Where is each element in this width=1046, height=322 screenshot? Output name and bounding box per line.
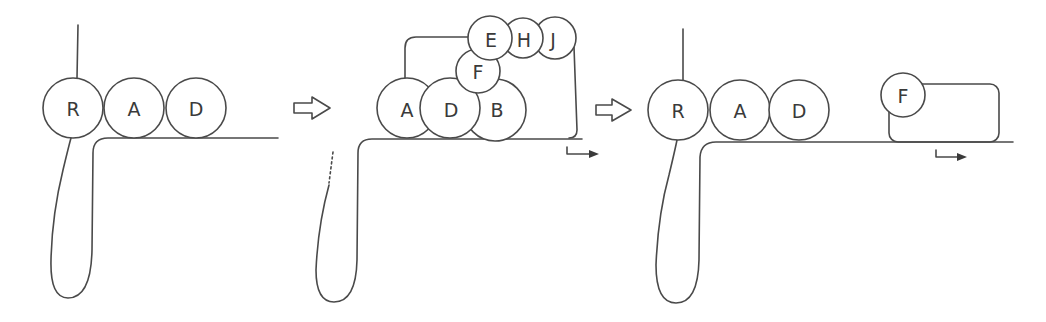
strand-top bbox=[77, 25, 78, 78]
direction-arrowhead-icon bbox=[957, 153, 967, 161]
direction-arrowhead-icon bbox=[589, 150, 599, 158]
transition-arrow-1-icon bbox=[294, 97, 330, 119]
label-d: D bbox=[189, 98, 204, 120]
label-d: D bbox=[792, 100, 807, 122]
diagram-canvas: R A D A B D F E H J bbox=[0, 0, 1046, 322]
label-d: D bbox=[444, 99, 459, 121]
label-a: A bbox=[128, 98, 141, 120]
label-j: J bbox=[549, 29, 556, 51]
track-line bbox=[656, 140, 1013, 303]
label-r: R bbox=[671, 100, 684, 122]
label-b: B bbox=[490, 99, 503, 121]
label-r: R bbox=[66, 98, 79, 120]
direction-arrow-icon bbox=[936, 150, 960, 157]
label-h: H bbox=[517, 29, 531, 51]
track-line bbox=[316, 139, 582, 302]
direction-arrow-icon bbox=[567, 147, 592, 154]
label-a: A bbox=[734, 100, 747, 122]
transition-arrow-2-icon bbox=[596, 99, 631, 121]
strand-dotted bbox=[329, 152, 333, 183]
label-f: F bbox=[473, 61, 484, 83]
track-line bbox=[51, 138, 278, 298]
label-e: E bbox=[485, 29, 497, 51]
label-a: A bbox=[401, 99, 414, 121]
panel-2: A B D F E H J bbox=[316, 16, 599, 302]
panel-3: R A D F bbox=[648, 29, 1013, 303]
label-f: F bbox=[898, 85, 909, 107]
panel-1: R A D bbox=[43, 25, 278, 298]
